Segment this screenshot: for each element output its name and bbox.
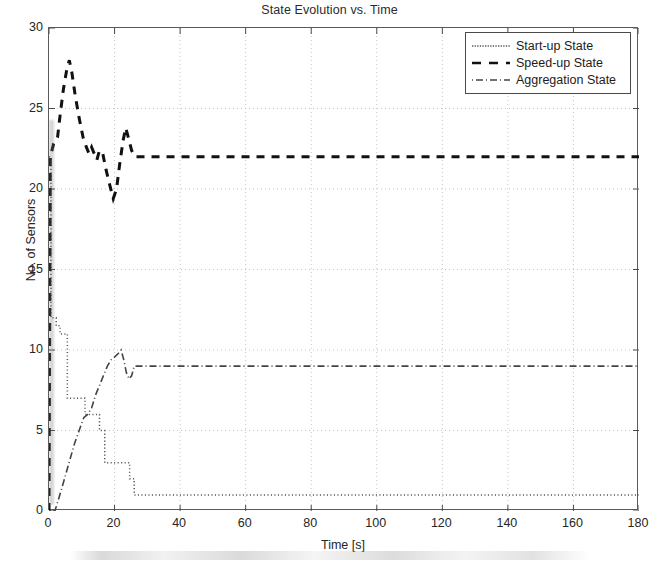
legend-item-start-up-state: Start-up State <box>471 37 625 54</box>
scan-artifact-bottom <box>70 551 590 560</box>
x-tick-label: 0 <box>18 516 78 530</box>
chart-title: State Evolution vs. Time <box>0 3 659 17</box>
series-line-0 <box>49 157 639 495</box>
x-axis-tick-labels: 020406080100120140160180 <box>48 516 638 534</box>
grid-lines <box>49 28 639 511</box>
x-tick-label: 60 <box>215 516 275 530</box>
legend-swatch-dotted-icon <box>471 39 511 53</box>
x-tick-label: 80 <box>280 516 340 530</box>
y-tick-label: 10 <box>3 342 43 356</box>
legend-item-speed-up-state: Speed-up State <box>471 54 625 71</box>
x-tick-label: 160 <box>542 516 602 530</box>
plot-area <box>48 27 638 510</box>
y-tick-label: 25 <box>3 101 43 115</box>
x-tick-label: 120 <box>411 516 471 530</box>
legend-label: Aggregation State <box>516 73 616 87</box>
y-tick-label: 5 <box>3 423 43 437</box>
x-tick-label: 180 <box>608 516 659 530</box>
y-axis-label: No. of Sensors <box>24 160 38 320</box>
x-tick-label: 100 <box>346 516 406 530</box>
legend-swatch-dashed-icon <box>471 56 511 70</box>
legend-label: Start-up State <box>516 39 593 53</box>
x-tick-label: 40 <box>149 516 209 530</box>
y-tick-label: 30 <box>3 20 43 34</box>
plot-canvas <box>49 28 639 511</box>
legend-swatch-dashdot-icon <box>471 73 511 87</box>
legend-label: Speed-up State <box>516 56 603 70</box>
chart-legend: Start-up State Speed-up State Aggregatio… <box>465 32 631 94</box>
chart-figure: State Evolution vs. Time 051015202530 02… <box>0 0 659 564</box>
y-tick-label: 0 <box>3 503 43 517</box>
x-tick-label: 140 <box>477 516 537 530</box>
x-tick-label: 20 <box>84 516 144 530</box>
series-line-1 <box>49 60 639 511</box>
legend-item-aggregation-state: Aggregation State <box>471 71 625 88</box>
x-axis-label: Time [s] <box>48 538 638 552</box>
